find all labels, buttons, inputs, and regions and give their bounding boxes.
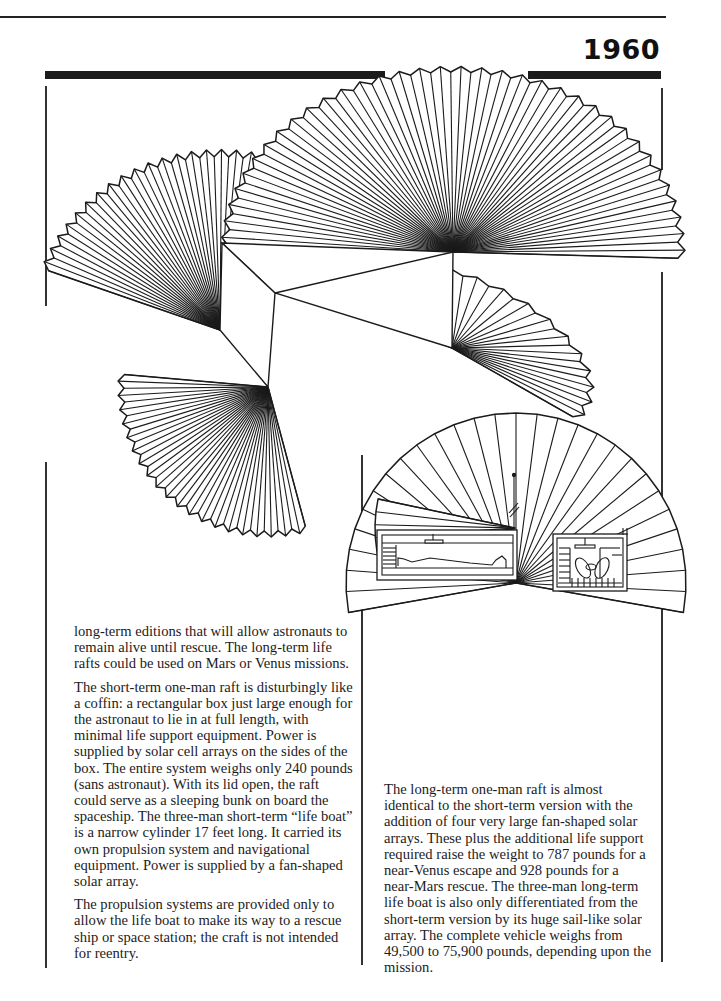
paragraph: The long-term one-man raft is almost ide… bbox=[384, 781, 652, 975]
paragraph: The propulsion systems are provided only… bbox=[74, 896, 354, 961]
right-column-text: The long-term one-man raft is almost ide… bbox=[384, 781, 652, 982]
left-column-text: long-term editions that will allow astro… bbox=[74, 623, 354, 968]
paragraph: The short-term one-man raft is disturbin… bbox=[74, 679, 354, 890]
paragraph: long-term editions that will allow astro… bbox=[74, 623, 354, 672]
